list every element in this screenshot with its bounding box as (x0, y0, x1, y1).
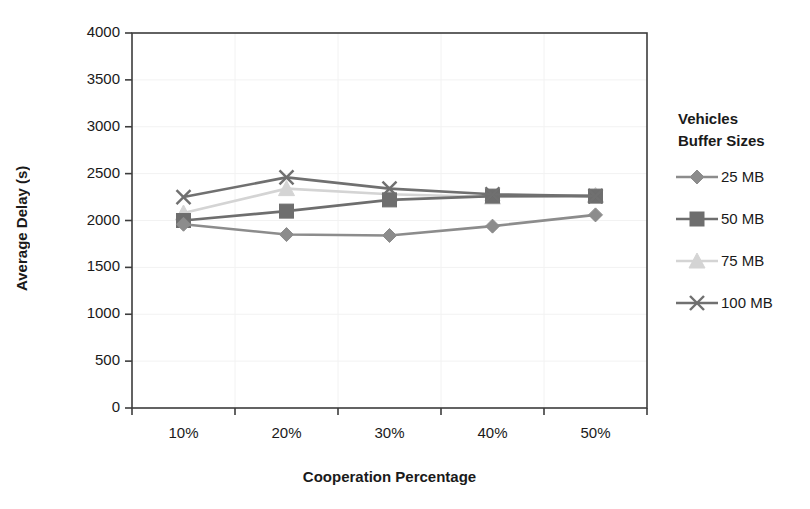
data-point-diamond (280, 228, 294, 242)
chart-legend: Vehicles Buffer Sizes 25 MB50 MB75 MB100… (676, 108, 806, 334)
y-axis-tick-label: 3500 (62, 70, 120, 87)
legend-entry-50-mb[interactable]: 50 MB (676, 208, 806, 230)
data-point-diamond (690, 170, 704, 184)
data-point-square (280, 204, 294, 218)
data-point-square (486, 189, 500, 203)
data-point-diamond (383, 229, 397, 243)
legend-label: 75 MB (721, 252, 764, 269)
legend-entry-25-mb[interactable]: 25 MB (676, 166, 806, 188)
legend-label: 100 MB (721, 294, 773, 311)
x-axis-tick-label: 10% (154, 424, 214, 441)
y-axis-tick-label: 1000 (62, 304, 120, 321)
legend-marker-diamond-icon (676, 167, 718, 187)
legend-label: 50 MB (721, 210, 764, 227)
x-axis-tick-label: 20% (257, 424, 317, 441)
y-axis-tick-label: 0 (62, 398, 120, 415)
x-axis-tick-label: 50% (566, 424, 626, 441)
series-25-mb (177, 208, 603, 243)
y-axis-tick-label: 2500 (62, 164, 120, 181)
x-axis-tick-label: 30% (360, 424, 420, 441)
legend-marker-square-icon (676, 209, 718, 229)
data-point-square (690, 212, 704, 226)
x-axis-tick-label: 40% (463, 424, 523, 441)
y-axis-tick-label: 500 (62, 351, 120, 368)
y-axis-title: Average Delay (s) (8, 118, 34, 338)
y-axis-tick-label: 3000 (62, 117, 120, 134)
y-axis-tick-label: 1500 (62, 257, 120, 274)
data-point-diamond (486, 219, 500, 233)
legend-entry-75-mb[interactable]: 75 MB (676, 250, 806, 272)
legend-entries: 25 MB50 MB75 MB100 MB (676, 166, 806, 314)
legend-marker-triangle-icon (676, 251, 718, 271)
y-axis-tick-label: 4000 (62, 23, 120, 40)
legend-entry-100-mb[interactable]: 100 MB (676, 292, 806, 314)
legend-label: 25 MB (721, 168, 764, 185)
x-axis-title: Cooperation Percentage (132, 468, 647, 485)
y-axis-tick-label: 2000 (62, 211, 120, 228)
legend-title: Vehicles Buffer Sizes (678, 108, 806, 152)
legend-marker (690, 212, 704, 226)
data-point-diamond (589, 208, 603, 222)
chart-container: 05001000150020002500300035004000 10%20%3… (0, 0, 810, 509)
legend-marker (690, 170, 704, 184)
legend-marker-x-icon (676, 293, 718, 313)
